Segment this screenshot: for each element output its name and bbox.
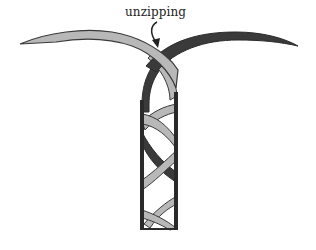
unzipping-arrow-icon: [152, 22, 160, 48]
dna-unzipping-diagram: [0, 0, 316, 250]
unzipping-label: unzipping: [125, 5, 186, 19]
